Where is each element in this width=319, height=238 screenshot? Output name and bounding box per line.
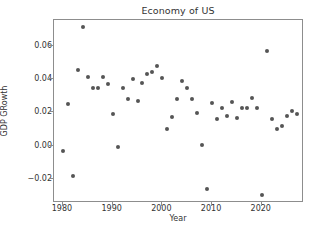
page-title: Economy of US <box>53 5 303 16</box>
data-point <box>136 99 140 103</box>
data-point <box>76 68 80 72</box>
data-point <box>101 75 105 79</box>
data-point <box>96 86 100 90</box>
data-point <box>150 70 154 74</box>
x-axis-label: Year <box>53 214 303 223</box>
data-point <box>86 75 90 79</box>
data-point <box>185 86 189 90</box>
data-point <box>175 97 179 101</box>
data-point <box>290 109 294 113</box>
data-point <box>210 101 214 105</box>
data-point <box>165 127 169 131</box>
data-point <box>111 112 115 116</box>
data-point <box>235 116 239 120</box>
data-point <box>295 112 299 116</box>
data-point <box>220 106 224 110</box>
data-point <box>160 76 164 80</box>
data-point <box>106 82 110 86</box>
x-tick-mark <box>62 202 63 206</box>
data-point <box>215 117 219 121</box>
data-point <box>116 145 120 149</box>
data-point <box>155 64 159 68</box>
data-point <box>140 81 144 85</box>
data-point <box>240 106 244 110</box>
data-point <box>230 100 234 104</box>
data-point <box>280 124 284 128</box>
data-point <box>71 174 75 178</box>
data-point <box>205 187 209 191</box>
data-point <box>91 86 95 90</box>
data-point <box>270 117 274 121</box>
data-point <box>195 111 199 115</box>
data-point <box>61 149 65 153</box>
y-axis-label: GDP GRowth <box>0 86 9 137</box>
data-point <box>131 77 135 81</box>
data-point <box>180 79 184 83</box>
x-tick-mark <box>161 202 162 206</box>
x-tick-mark <box>261 202 262 206</box>
data-point <box>126 97 130 101</box>
x-tick-mark <box>112 202 113 206</box>
data-point <box>81 25 85 29</box>
scatter-plot-figure: Economy of US GDP GRowth Year −0.020.000… <box>0 0 319 238</box>
data-point <box>170 115 174 119</box>
data-point <box>225 114 229 118</box>
data-point <box>285 114 289 118</box>
data-point <box>250 96 254 100</box>
data-point <box>255 106 259 110</box>
data-point <box>200 143 204 147</box>
plot-area <box>53 19 303 202</box>
data-point <box>260 193 264 197</box>
data-point <box>121 86 125 90</box>
x-tick-mark <box>211 202 212 206</box>
data-point <box>66 102 70 106</box>
data-point <box>245 106 249 110</box>
data-point <box>265 49 269 53</box>
data-point <box>190 97 194 101</box>
data-point <box>275 127 279 131</box>
data-point <box>145 72 149 76</box>
